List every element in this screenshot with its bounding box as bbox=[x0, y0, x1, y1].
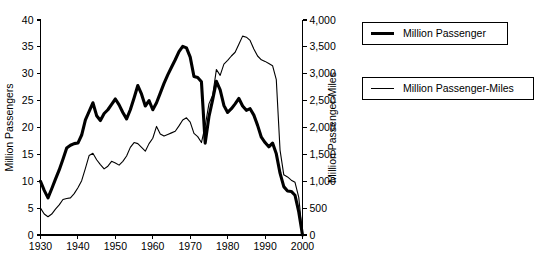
y-tick-label-right: 500 bbox=[310, 202, 328, 214]
y-tick-label-right: 4,000 bbox=[310, 14, 336, 26]
chart-legend: Million Passenger Million Passenger-Mile… bbox=[362, 0, 541, 262]
legend-item-million-passenger-miles[interactable]: Million Passenger-Miles bbox=[362, 77, 534, 100]
x-tick-label: 1960 bbox=[141, 240, 165, 252]
y-tick-label-right: 3,500 bbox=[310, 40, 336, 52]
x-tick-label: 1930 bbox=[29, 240, 53, 252]
x-tick-label: 2000 bbox=[291, 240, 315, 252]
y-tick-label-left: 30 bbox=[22, 67, 34, 79]
x-tick-label: 1950 bbox=[104, 240, 128, 252]
chart-canvas: 1930194019501960197019801990200005101520… bbox=[0, 0, 341, 262]
legend-label-million-passenger: Million Passenger bbox=[403, 28, 486, 39]
x-tick-label: 1980 bbox=[216, 240, 240, 252]
x-tick-label: 1970 bbox=[179, 240, 203, 252]
y-tick-label-left: 35 bbox=[22, 40, 34, 52]
y-tick-label-left: 40 bbox=[22, 14, 34, 26]
chart-screenshot: 1930194019501960197019801990200005101520… bbox=[0, 0, 541, 262]
y-tick-label-left: 15 bbox=[22, 148, 34, 160]
y-tick-label-left: 5 bbox=[28, 202, 34, 214]
y-tick-label-left: 25 bbox=[22, 94, 34, 106]
x-tick-label: 1940 bbox=[66, 240, 90, 252]
legend-line-swatch-thick bbox=[371, 32, 394, 35]
legend-item-million-passenger[interactable]: Million Passenger bbox=[362, 22, 508, 45]
legend-label-million-passenger-miles: Million Passenger-Miles bbox=[403, 83, 514, 94]
line-chart-figure: 1930194019501960197019801990200005101520… bbox=[0, 0, 341, 262]
left-axis-title: Million Passengers bbox=[3, 83, 15, 171]
y-tick-label-left: 10 bbox=[22, 175, 34, 187]
y-tick-label-left: 0 bbox=[28, 229, 34, 241]
left-and-bottom-axis bbox=[41, 20, 303, 235]
y-tick-label-left: 20 bbox=[22, 121, 34, 133]
right-axis-title: Million Passenger-Miles bbox=[326, 72, 338, 183]
legend-line-swatch-thin bbox=[371, 88, 394, 89]
y-tick-label-right: 0 bbox=[310, 229, 316, 241]
series-line-million-passenger bbox=[41, 46, 303, 235]
x-tick-label: 1990 bbox=[253, 240, 277, 252]
